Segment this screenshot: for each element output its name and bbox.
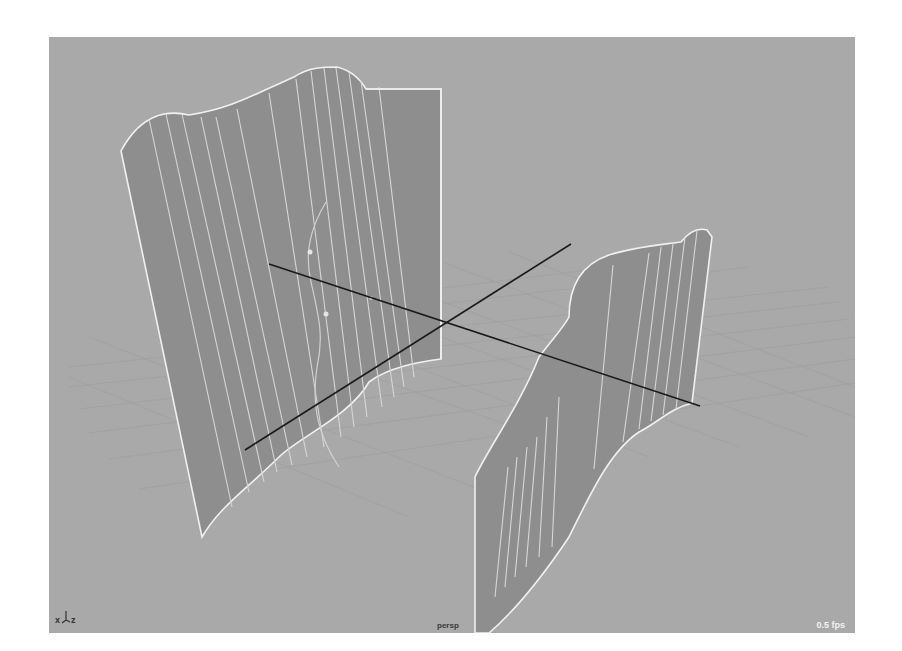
nurbs-surface-right[interactable] [475, 229, 712, 633]
3d-viewport[interactable]: x z persp 0.5 fps [49, 37, 855, 633]
axis-gizmo: x z [55, 605, 89, 625]
camera-name-label: persp [437, 621, 459, 630]
scene-canvas[interactable] [49, 37, 855, 633]
control-point[interactable] [308, 250, 313, 255]
control-point[interactable] [324, 312, 329, 317]
axis-gizmo-z-label: z [71, 615, 77, 625]
fps-counter: 0.5 fps [816, 620, 845, 630]
nurbs-surface-left[interactable] [121, 67, 441, 537]
